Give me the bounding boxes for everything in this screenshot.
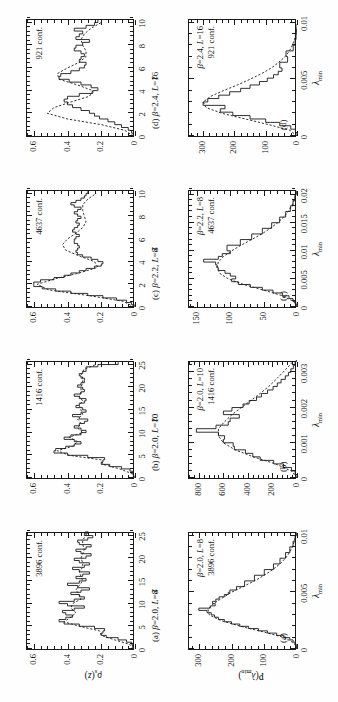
y-tick-label: 300 bbox=[198, 141, 207, 154]
y-tick-label: 200 bbox=[229, 141, 238, 154]
panel-tag-bot-d: (d) bbox=[278, 120, 288, 131]
figure-stage: 051015202500.20.40.6zρs(z)(a) β=2.0, L=8… bbox=[0, 0, 338, 702]
x-tick-label: 0 bbox=[300, 135, 309, 139]
y-tick bbox=[297, 20, 298, 25]
y-tick bbox=[297, 131, 298, 136]
multi-panel-figure: 051015202500.20.40.6zρs(z)(a) β=2.0, L=8… bbox=[0, 0, 338, 702]
y-tick-label: 0 bbox=[292, 141, 301, 145]
x-tick-label: 0.01 bbox=[300, 16, 309, 31]
x-axis-label: λmin bbox=[312, 71, 323, 85]
panel-bot-d: 00.0050.010100200300λmin(d)β=2.4, L=1692… bbox=[0, 0, 338, 702]
x-tick-label: 0.005 bbox=[300, 71, 309, 90]
y-tick-label: 100 bbox=[260, 141, 269, 154]
panel-params-bot-d: β=2.4, L=16921 conf. bbox=[195, 26, 216, 68]
